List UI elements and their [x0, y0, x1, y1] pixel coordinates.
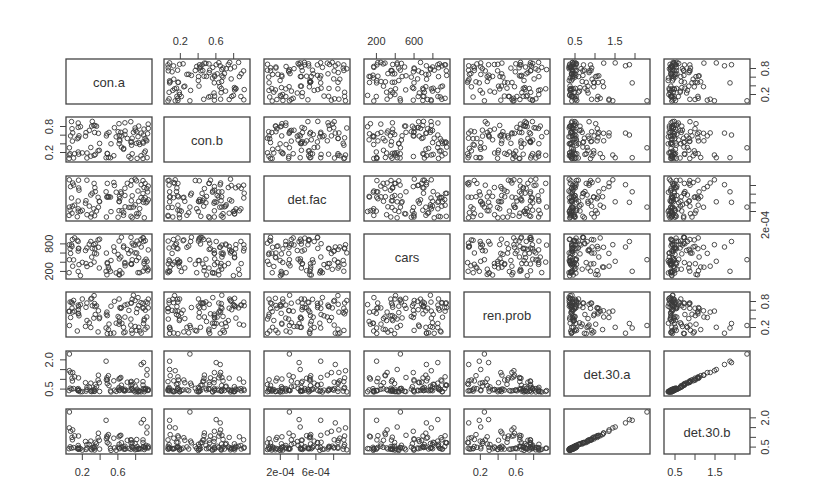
- panel-det.fac-vs-det.fac: det.fac: [264, 176, 350, 221]
- tick-label: 0.2: [173, 35, 188, 47]
- panel-cars-vs-det.fac: [264, 234, 350, 279]
- tick-label: 0.2: [75, 466, 90, 478]
- variable-label: det.30.a: [584, 367, 632, 382]
- panel-con.a-vs-con.a: con.a: [66, 59, 152, 104]
- panel-det.30.a-vs-det.fac: [264, 351, 350, 396]
- panel-cars-vs-cars: cars: [364, 234, 450, 279]
- panel-det.30.a-vs-cars: [364, 351, 450, 396]
- panel-det.fac-vs-ren.prob: [464, 176, 550, 221]
- panel-det.30.b-vs-cars: [364, 409, 450, 454]
- tick-label: 2.0: [759, 410, 771, 425]
- tick-label: 0.6: [508, 466, 523, 478]
- panel-ren.prob-vs-det.30.b: [664, 292, 750, 337]
- panel-con.a-vs-con.b: [164, 59, 250, 104]
- variable-label: det.fac: [287, 192, 327, 207]
- panel-det.30.b-vs-con.b: [164, 409, 250, 454]
- panel-con.b-vs-det.fac: [264, 117, 350, 162]
- panel-det.30.b-vs-det.30.b: det.30.b: [664, 409, 750, 454]
- tick-label: 0.2: [473, 466, 488, 478]
- panel-det.fac-vs-det.30.a: [564, 176, 650, 221]
- panel-det.30.b-vs-ren.prob: [464, 409, 550, 454]
- panel-ren.prob-vs-ren.prob: ren.prob: [464, 292, 550, 337]
- tick-label: 0.8: [759, 294, 771, 309]
- tick-label: 0.8: [759, 61, 771, 76]
- panel-det.30.a-vs-con.b: [164, 351, 250, 396]
- panel-con.b-vs-con.a: [66, 117, 152, 162]
- tick-label: 0.6: [110, 466, 125, 478]
- panel-ren.prob-vs-det.30.a: [564, 292, 650, 337]
- panel-con.a-vs-det.30.a: [564, 59, 650, 104]
- pairs-plot-svg: con.acon.bdet.faccarsren.probdet.30.adet…: [0, 0, 814, 498]
- panel-con.a-vs-cars: [364, 59, 450, 104]
- panel-det.30.a-vs-ren.prob: [464, 351, 550, 396]
- tick-label: 2e-04: [266, 466, 294, 478]
- panel-con.a-vs-ren.prob: [464, 59, 550, 104]
- scatterplot-matrix: con.acon.bdet.faccarsren.probdet.30.adet…: [0, 0, 814, 498]
- panel-cars-vs-det.30.a: [564, 234, 650, 279]
- panel-det.30.b-vs-con.a: [66, 409, 152, 454]
- tick-label: 200: [43, 262, 55, 280]
- panel-ren.prob-vs-det.fac: [264, 292, 350, 337]
- tick-label: 1.5: [707, 466, 722, 478]
- panel-det.fac-vs-con.b: [164, 176, 250, 221]
- panel-con.b-vs-cars: [364, 117, 450, 162]
- tick-label: 0.6: [208, 35, 223, 47]
- panel-con.a-vs-det.fac: [264, 59, 350, 104]
- variable-label: con.b: [191, 133, 223, 148]
- tick-label: 600: [405, 35, 423, 47]
- variable-label: det.30.b: [684, 425, 731, 440]
- panel-det.30.b-vs-det.30.a: [564, 409, 650, 454]
- panel-det.30.a-vs-con.a: [66, 351, 152, 396]
- tick-label: 0.8: [43, 119, 55, 134]
- tick-label: 0.2: [759, 87, 771, 102]
- panel-cars-vs-con.a: [66, 234, 152, 279]
- tick-label: 0.5: [759, 439, 771, 454]
- panel-det.30.a-vs-det.30.a: det.30.a: [564, 351, 650, 396]
- panel-con.b-vs-det.30.a: [564, 117, 650, 162]
- tick-label: 200: [367, 35, 385, 47]
- panel-cars-vs-ren.prob: [464, 234, 550, 279]
- panel-det.fac-vs-cars: [364, 176, 450, 221]
- panel-con.b-vs-ren.prob: [464, 117, 550, 162]
- panel-cars-vs-con.b: [164, 234, 250, 279]
- variable-label: ren.prob: [483, 308, 531, 323]
- panel-ren.prob-vs-con.b: [164, 292, 250, 337]
- tick-label: 0.2: [759, 320, 771, 335]
- panel-cars-vs-det.30.b: [664, 234, 750, 279]
- panel-con.b-vs-det.30.b: [664, 117, 750, 162]
- tick-label: 0.5: [567, 35, 582, 47]
- panel-det.fac-vs-con.a: [66, 176, 152, 221]
- panel-ren.prob-vs-cars: [364, 292, 450, 337]
- panel-det.fac-vs-det.30.b: [664, 176, 750, 221]
- tick-label: 800: [43, 235, 55, 253]
- variable-label: cars: [395, 250, 420, 265]
- tick-label: 2.0: [43, 352, 55, 367]
- tick-label: 0.5: [667, 466, 682, 478]
- tick-label: 0.5: [43, 381, 55, 396]
- tick-label: 2e-04: [759, 211, 771, 239]
- tick-label: 1.5: [607, 35, 622, 47]
- tick-label: 0.2: [43, 145, 55, 160]
- panel-con.a-vs-det.30.b: [664, 59, 750, 104]
- tick-label: 6e-04: [302, 466, 330, 478]
- variable-label: con.a: [93, 75, 126, 90]
- panel-det.30.a-vs-det.30.b: [664, 351, 750, 396]
- panel-det.30.b-vs-det.fac: [264, 409, 350, 454]
- panel-con.b-vs-con.b: con.b: [164, 117, 250, 162]
- panel-ren.prob-vs-con.a: [66, 292, 152, 337]
